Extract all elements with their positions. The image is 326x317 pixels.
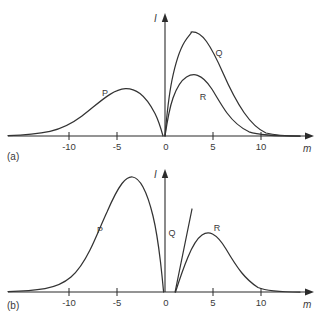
- panel-a: -10 -5 0 5 10 I m P Q R (a): [7, 13, 314, 162]
- panel-b-ticklabel-10: 10: [256, 297, 267, 308]
- panel-a-ticklabel-10: 10: [256, 141, 267, 152]
- panel-a-ticklabel-5: 5: [210, 141, 215, 152]
- panel-a-ticklabel--10: -10: [62, 141, 76, 152]
- panel-a-curve-label-R: R: [200, 92, 207, 102]
- panel-a-y-axis-label: I: [154, 13, 157, 24]
- panel-a-label: (a): [7, 151, 19, 162]
- panel-b-y-axis-label: I: [154, 169, 157, 180]
- panel-a-curve-R: [165, 75, 300, 136]
- panel-b-ticklabel--10: -10: [62, 297, 76, 308]
- panel-b: -10 -5 0 5 10 I m P Q R (b): [7, 169, 314, 311]
- panel-a-ticklabel-0: 0: [163, 141, 168, 152]
- panel-b-curve-label-Q: Q: [168, 228, 175, 238]
- panel-b-curve-P: [8, 177, 164, 292]
- figure-root: -10 -5 0 5 10 I m P Q R (a) -10 -5: [0, 0, 326, 317]
- panel-b-curve-label-R: R: [214, 223, 221, 233]
- panel-a-curve-label-P: P: [102, 88, 108, 98]
- panel-a-curve-P: [8, 89, 163, 136]
- panel-a-curve-label-Q: Q: [215, 48, 222, 58]
- panel-a-y-axis-arrowhead: [162, 13, 168, 22]
- panel-b-curve-Q: [175, 209, 192, 292]
- panel-b-x-axis-label: m: [303, 299, 311, 310]
- panel-b-curve-R: [176, 233, 301, 292]
- panel-b-ticklabel-0: 0: [163, 297, 168, 308]
- panel-a-x-axis-label: m: [303, 143, 311, 154]
- panel-b-ticklabel--5: -5: [113, 297, 121, 308]
- panel-b-y-axis-arrowhead: [162, 169, 168, 178]
- panel-b-x-axis-arrowhead: [305, 289, 314, 296]
- panel-a-x-axis-arrowhead: [305, 133, 314, 140]
- panel-b-label: (b): [7, 300, 19, 311]
- panel-b-ticklabel-5: 5: [210, 297, 215, 308]
- panel-a-ticklabel--5: -5: [113, 141, 121, 152]
- panel-b-curve-label-P: P: [97, 225, 103, 235]
